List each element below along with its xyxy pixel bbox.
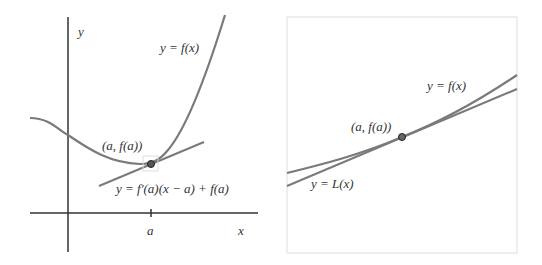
tangent-point <box>148 161 155 168</box>
right-panel: y = f(x) (a, f(a)) y = L(x) <box>287 17 517 253</box>
y-axis-label: y <box>76 24 84 39</box>
tangent-label-zoomed: y = L(x) <box>309 176 354 191</box>
curve-label: y = f(x) <box>158 40 199 55</box>
point-label-zoomed: (a, f(a)) <box>351 119 391 134</box>
tick-label-a: a <box>147 223 154 238</box>
left-panel: y x a y = f(x) (a, f(a)) y = f′(a)(x − a… <box>30 15 258 252</box>
point-label: (a, f(a)) <box>102 138 142 153</box>
curve-label-zoomed: y = f(x) <box>425 78 466 93</box>
tangent-label: y = f′(a)(x − a) + f(a) <box>114 181 229 196</box>
tangent-line-diagram: y x a y = f(x) (a, f(a)) y = f′(a)(x − a… <box>0 0 542 265</box>
x-axis-label: x <box>237 223 244 238</box>
tangent-point-zoomed <box>399 134 406 141</box>
